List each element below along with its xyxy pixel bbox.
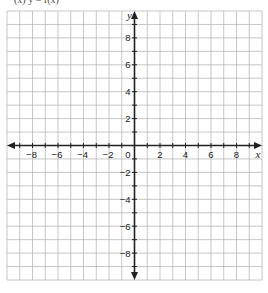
x-axis-label: x [255, 148, 261, 160]
y-tick-label: −4 [120, 194, 131, 205]
y-tick-label: 6 [125, 59, 130, 70]
y-axis-label: y [126, 9, 132, 21]
x-tick-label: −8 [26, 149, 37, 160]
tick-labels: −8−6−4−224688642−2−4−6−80xy [26, 9, 260, 259]
header-fragment: (x) y = f(x) [14, 0, 59, 6]
x-tick-label: 2 [157, 149, 162, 160]
y-axis-down-arrow-icon [131, 272, 138, 280]
x-tick-label: −4 [77, 149, 88, 160]
y-tick-label: 4 [125, 86, 130, 97]
x-tick-label: −6 [52, 149, 63, 160]
origin-label: 0 [125, 149, 130, 160]
coordinate-plane: (x) y = f(x) −8−6−4−224688642−2−4−6−80xy [0, 0, 268, 293]
x-tick-label: 6 [208, 149, 213, 160]
y-tick-label: 2 [125, 113, 130, 124]
header-text: (x) y = f(x) [14, 0, 59, 6]
x-tick-label: 8 [234, 149, 239, 160]
y-axis-up-arrow-icon [131, 11, 138, 19]
x-tick-label: −2 [103, 149, 114, 160]
x-axis-left-arrow-icon [7, 142, 15, 149]
x-tick-label: 4 [183, 149, 188, 160]
y-tick-label: −8 [120, 248, 131, 259]
y-tick-label: −6 [120, 221, 131, 232]
y-tick-label: −2 [120, 167, 131, 178]
y-tick-label: 8 [125, 32, 130, 43]
